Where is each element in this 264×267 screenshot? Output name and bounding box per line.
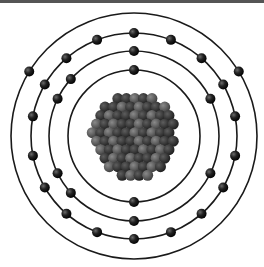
electron (40, 183, 50, 193)
electron (205, 94, 215, 104)
electron (61, 209, 71, 219)
electron (66, 188, 76, 198)
electron (129, 28, 139, 38)
electron (53, 168, 63, 178)
electron (197, 209, 207, 219)
nucleus (87, 93, 179, 181)
electron (166, 35, 176, 45)
electron (92, 227, 102, 237)
electron (40, 80, 50, 90)
electron (129, 197, 139, 207)
electron (61, 53, 71, 63)
electron (205, 168, 215, 178)
nucleon (142, 170, 153, 181)
electron (230, 111, 240, 121)
electron (218, 183, 228, 193)
electron (129, 46, 139, 56)
electron (66, 74, 76, 84)
electron (129, 234, 139, 244)
electron (234, 67, 244, 77)
electron (197, 53, 207, 63)
electron (129, 65, 139, 75)
electron (24, 67, 34, 77)
electron (53, 94, 63, 104)
atom-diagram (0, 0, 264, 267)
electron (28, 151, 38, 161)
electron (28, 111, 38, 121)
electron (218, 80, 228, 90)
nucleon (155, 161, 166, 172)
electron (230, 151, 240, 161)
electron (92, 35, 102, 45)
electron (129, 216, 139, 226)
electron (166, 227, 176, 237)
